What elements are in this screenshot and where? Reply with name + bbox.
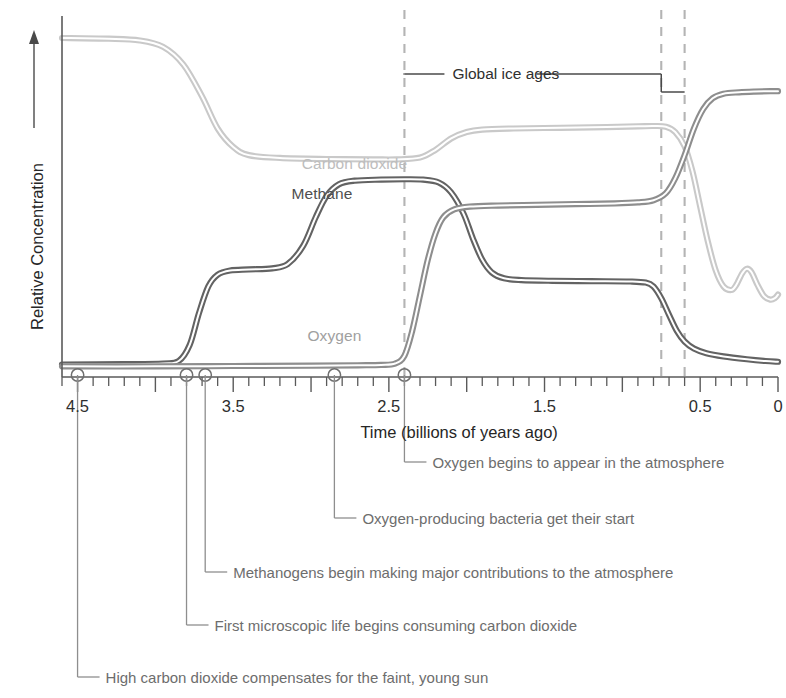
annotation-high-co2: High carbon dioxide compensates for the … — [106, 669, 489, 686]
x-axis-title: Time (billions of years ago) — [360, 423, 557, 442]
x-axis-label-0: 0 — [774, 397, 783, 416]
x-axis-label-4-5: 4.5 — [66, 397, 89, 416]
annotation-first-life: First microscopic life begins consuming … — [215, 617, 578, 634]
annotation-methanogens: Methanogens begin making major contribut… — [233, 564, 673, 581]
x-axis-label-0-5: 0.5 — [689, 397, 712, 416]
chart-root: Relative Concentration 4.5 3.5 2.5 1.5 0… — [0, 0, 786, 698]
series-label-carbon-dioxide: Carbon dioxide — [302, 155, 408, 173]
annotation-oxygen-appears: Oxygen begins to appear in the atmospher… — [432, 454, 724, 471]
x-axis-label-1-5: 1.5 — [533, 397, 556, 416]
chart-canvas — [0, 0, 786, 698]
annotation-oxygen-bacteria: Oxygen-producing bacteria get their star… — [362, 510, 634, 527]
x-axis-ticks — [62, 377, 778, 392]
y-axis-arrow — [29, 30, 39, 128]
series-curve-carbon-dioxide — [62, 38, 778, 300]
series-curve-methane — [62, 179, 778, 364]
global-ice-ages-label: Global ice ages — [452, 65, 559, 83]
x-axis-label-2-5: 2.5 — [377, 397, 400, 416]
x-axis-label-3-5: 3.5 — [222, 397, 245, 416]
series-label-oxygen: Oxygen — [307, 327, 361, 345]
series-label-methane: Methane — [291, 185, 352, 203]
y-axis-title: Relative Concentration — [28, 163, 47, 330]
